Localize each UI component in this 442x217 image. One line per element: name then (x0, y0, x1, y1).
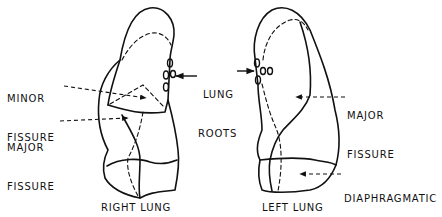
lung-roots-label: LUNG ROOTS (198, 62, 237, 166)
minor-fissure-leader (64, 86, 146, 98)
lung-diagram: MINOR FISSURE MAJOR FISSURE LUNG ROOTS M… (0, 0, 442, 217)
lung-roots-label-line1: LUNG (198, 88, 237, 101)
right-horizontal-line (108, 100, 168, 113)
major-fissure-left-label-line1: MAJOR (347, 109, 395, 122)
minor-fissure-label-line1: MINOR (7, 92, 55, 105)
major-fissure-right-label: MAJOR FISSURE (7, 115, 55, 217)
left-major-fissure-line (269, 22, 310, 191)
major-fissure-right-leader (60, 118, 128, 121)
right-base-line (107, 159, 177, 166)
left-lung-outline (254, 8, 339, 192)
lung-roots-label-line2: ROOTS (198, 127, 237, 140)
right-lung-caption: RIGHT LUNG (101, 201, 171, 214)
left-base-line (260, 158, 336, 165)
diaphragmatic-surface-label-line1: DIAPHRAGMATIC (344, 192, 437, 205)
major-fissure-right-label-line1: MAJOR (7, 141, 55, 154)
right-hidden-apex (122, 33, 171, 60)
left-lung-caption: LEFT LUNG (262, 201, 324, 214)
right-posterior-hidden (128, 112, 143, 196)
diaphragmatic-surface-label: DIAPHRAGMATIC SURFACE (344, 166, 437, 217)
right-lung (98, 8, 178, 198)
major-fissure-left-label-line2: FISSURE (347, 148, 395, 161)
right-minor-fissure-dashed (110, 85, 165, 108)
left-lung (254, 8, 339, 192)
major-fissure-right-label-line2: FISSURE (7, 180, 55, 193)
